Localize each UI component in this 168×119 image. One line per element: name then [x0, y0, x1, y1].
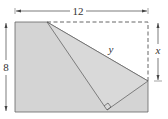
arrowhead-up-icon — [157, 23, 160, 28]
arrowhead-down-icon — [5, 106, 8, 111]
x-label: x — [155, 44, 161, 56]
arrowhead-right-icon — [142, 10, 147, 13]
arrowhead-left-icon — [16, 10, 21, 13]
width-label: 12 — [73, 5, 84, 17]
folded-paper-diagram: 12 8 x y — [0, 0, 168, 119]
y-label: y — [108, 43, 114, 55]
arrowhead-down-icon — [157, 75, 160, 80]
arrowhead-up-icon — [5, 23, 8, 28]
height-label: 8 — [3, 61, 9, 73]
